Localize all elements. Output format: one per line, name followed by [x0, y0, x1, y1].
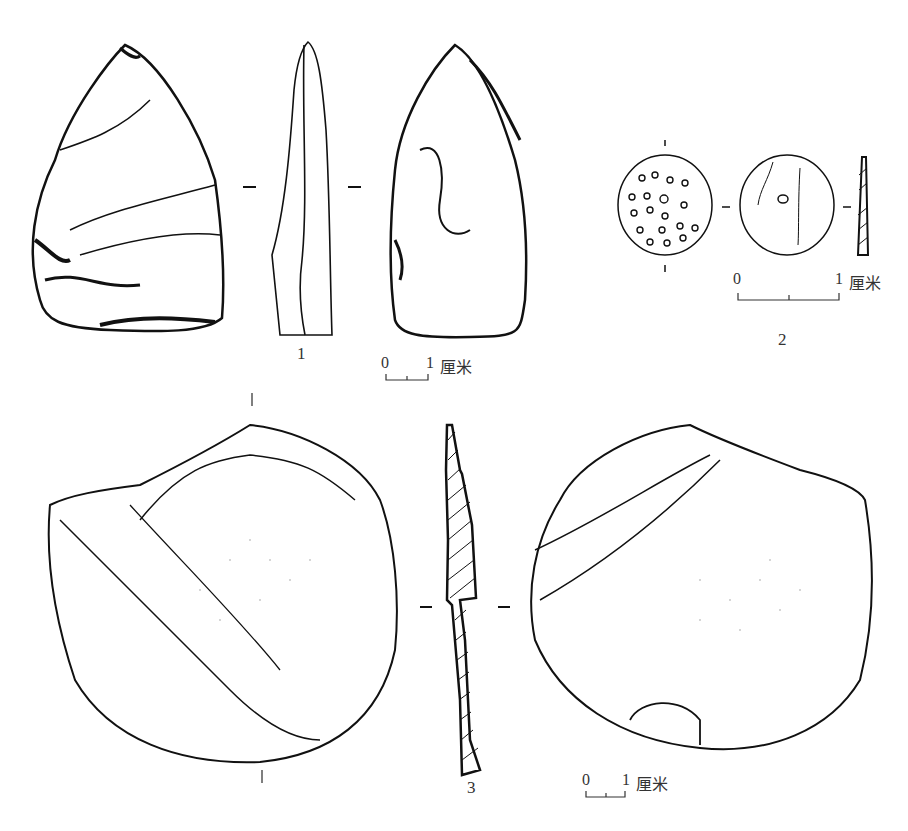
scale-bar-2 — [738, 293, 839, 300]
scale-1-start: 0 — [381, 354, 389, 372]
scale-1-end: 1 — [426, 354, 434, 372]
artifact-2-profile — [858, 157, 868, 255]
scale-3-start: 0 — [582, 771, 590, 789]
scale-2-unit: 厘米 — [849, 270, 881, 294]
artifact-3-face-b — [531, 425, 872, 749]
scale-bar-1 — [386, 374, 428, 380]
artifact-drawings — [0, 0, 908, 831]
artifact-1-dorsal-view — [33, 45, 223, 331]
scale-3-unit: 厘米 — [636, 771, 668, 795]
scale-bar-3 — [586, 791, 625, 797]
artifact-1-ventral-view — [390, 45, 526, 337]
scale-2-start: 0 — [733, 270, 741, 288]
artifact-label-1: 1 — [297, 344, 306, 364]
artifact-label-2: 2 — [778, 330, 787, 350]
scale-3-end: 1 — [622, 771, 630, 789]
scale-2-end: 1 — [835, 270, 843, 288]
artifact-3-face-a — [49, 425, 397, 762]
scale-1-unit: 厘米 — [440, 354, 472, 378]
artifact-label-3: 3 — [467, 778, 476, 798]
artifact-1-profile-view — [272, 42, 332, 335]
artifact-2-face-a — [618, 155, 712, 255]
artifact-3-cross-section — [446, 425, 480, 775]
artifact-2-face-b — [740, 155, 834, 255]
